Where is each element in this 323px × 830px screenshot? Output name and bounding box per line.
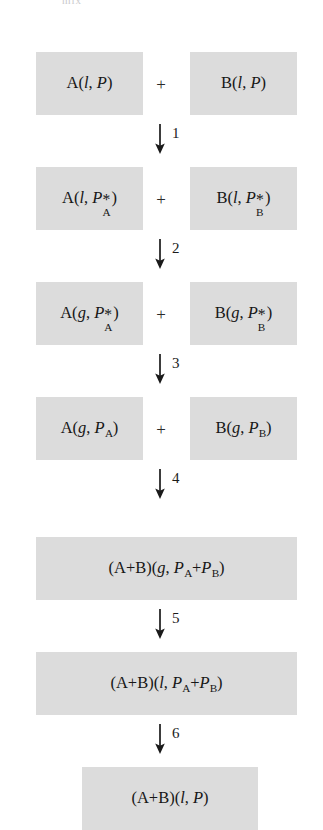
box-row7-narrow: (A+B)(l, P) [82, 767, 258, 830]
box-row4-right: B(g, PB) [190, 397, 297, 460]
cut-off-equation-fragment: mix [62, 0, 262, 6]
plus-row1: + [151, 76, 171, 93]
plus-row2: + [151, 191, 171, 208]
plus-row3: + [151, 306, 171, 323]
step-label-2: 2 [172, 241, 180, 256]
step-label-5: 5 [172, 611, 180, 626]
step-label-3: 3 [172, 356, 180, 371]
formula-row1-left: A(l, P) [67, 75, 113, 92]
formula-row1-right: B(l, P) [221, 75, 266, 92]
box-row2-left: A(l, P*A) [36, 167, 143, 230]
step-label-6: 6 [172, 726, 180, 741]
step-label-1: 1 [172, 126, 180, 141]
step-label-4: 4 [172, 471, 180, 486]
formula-row3-left: A(g, P*A) [60, 305, 119, 322]
formula-row4-right: B(g, PB) [215, 420, 271, 437]
formula-row2-right: B(l, P*B) [217, 190, 271, 207]
formula-row6: (A+B)(l, PA+PB) [110, 675, 222, 692]
box-row4-left: A(g, PA) [36, 397, 143, 460]
formula-row5: (A+B)(g, PA+PB) [109, 560, 225, 577]
box-row6-wide: (A+B)(l, PA+PB) [36, 652, 297, 715]
box-row3-right: B(g, P*B) [190, 282, 297, 345]
formula-row3-right: B(g, P*B) [215, 305, 273, 322]
box-row2-right: B(l, P*B) [190, 167, 297, 230]
box-row1-left: A(l, P) [36, 52, 143, 115]
box-row5-wide: (A+B)(g, PA+PB) [36, 537, 297, 600]
formula-row2-left: A(l, P*A) [62, 190, 117, 207]
formula-row4-left: A(g, PA) [61, 420, 119, 437]
plus-row4: + [151, 421, 171, 438]
box-row1-right: B(l, P) [190, 52, 297, 115]
box-row3-left: A(g, P*A) [36, 282, 143, 345]
formula-row7: (A+B)(l, P) [131, 790, 208, 807]
